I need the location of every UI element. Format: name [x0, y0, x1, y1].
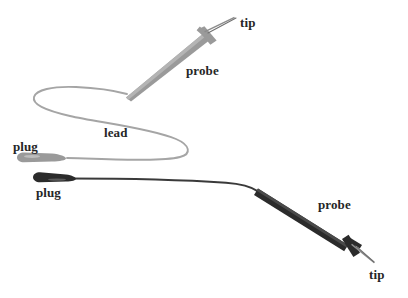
- upper-lead-wire: [34, 87, 188, 160]
- electrode-assembly-diagram: tip probe lead plug plug probe tip: [0, 0, 408, 298]
- lower-assembly: [33, 172, 374, 262]
- label-probe-lower: probe: [318, 198, 351, 211]
- label-plug-upper: plug: [13, 140, 38, 153]
- tip-lower-leader-line: [357, 247, 374, 262]
- label-plug-lower: plug: [36, 186, 61, 199]
- lower-lead-wire: [70, 179, 258, 192]
- upper-assembly: [17, 18, 234, 163]
- upper-probe-tip-line: [205, 18, 234, 32]
- lower-plug: [33, 172, 76, 182]
- lower-plug-highlight: [48, 179, 66, 181]
- upper-plug-highlight: [24, 155, 40, 158]
- label-lead: lead: [104, 126, 128, 139]
- label-probe-upper: probe: [186, 64, 219, 77]
- label-tip-lower: tip: [369, 268, 384, 281]
- diagram-canvas: [0, 0, 408, 298]
- label-tip-upper: tip: [240, 16, 255, 29]
- tip-upper-leader-line: [208, 18, 236, 33]
